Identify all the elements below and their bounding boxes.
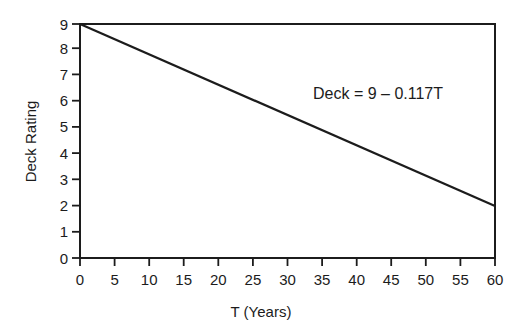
- y-tick-label-1: 1: [42, 224, 68, 239]
- x-tick-label-60: 60: [475, 272, 515, 287]
- y-tick-label-9: 9: [42, 17, 68, 32]
- chart-figure: 0 5 10 15 20 25 30 35 40 45 50 55 60 0 1…: [0, 0, 522, 336]
- y-tick-label-7: 7: [42, 67, 68, 82]
- y-tick-label-0: 0: [42, 251, 68, 266]
- x-axis-ticks: [80, 258, 495, 266]
- deck-rating-trend-line: [80, 24, 495, 206]
- y-tick-label-3: 3: [42, 172, 68, 187]
- y-tick-label-5: 5: [42, 119, 68, 134]
- y-tick-label-8: 8: [42, 41, 68, 56]
- x-axis-title: T (Years): [0, 303, 522, 320]
- y-axis-title: Deck Rating: [22, 67, 39, 217]
- y-axis-ticks: [72, 24, 80, 258]
- y-tick-label-6: 6: [42, 93, 68, 108]
- equation-annotation: Deck = 9 – 0.117T: [313, 85, 443, 103]
- y-tick-label-4: 4: [42, 146, 68, 161]
- y-tick-label-2: 2: [42, 198, 68, 213]
